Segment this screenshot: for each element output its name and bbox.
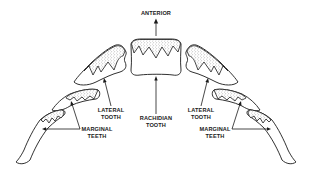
- marginal-left-label-line2: TEETH: [88, 133, 107, 139]
- lateral-left-label-line2: TOOTH: [101, 114, 121, 120]
- lateral-left-label-line1: LATERAL: [98, 107, 125, 113]
- lateral-tooth-right: [186, 45, 238, 85]
- marginal-left-label-line1: MARGINAL: [82, 126, 113, 132]
- anterior-label: ANTERIOR: [141, 10, 171, 16]
- leader-rachidian: [154, 76, 157, 114]
- rachidian-label-line2: TOOTH: [146, 122, 166, 128]
- rachidian-label-line1: RACHIDIAN: [140, 115, 172, 121]
- radula-diagram: ANTERIOR: [0, 0, 312, 171]
- leader-lateral-right: [201, 78, 209, 106]
- lateral-right-label-line1: LATERAL: [188, 107, 215, 113]
- marginal-right-label-line2: TEETH: [206, 133, 225, 139]
- marginal-right-label-line1: MARGINAL: [200, 126, 231, 132]
- lateral-right-label-line2: TOOTH: [191, 114, 211, 120]
- lateral-tooth-left: [74, 45, 126, 85]
- anterior-arrow: [154, 19, 158, 37]
- rachidian-tooth: [131, 39, 181, 75]
- leader-lateral-left: [103, 78, 111, 106]
